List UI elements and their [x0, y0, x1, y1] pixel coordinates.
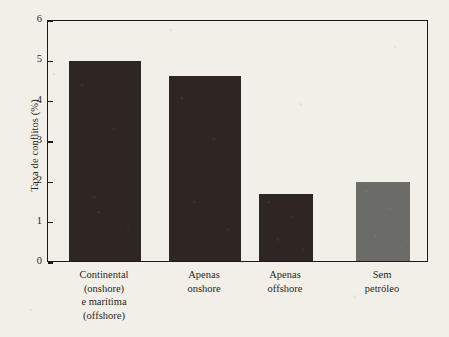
y-axis-tick-mark: [48, 222, 53, 224]
x-axis-label-line: Sem: [327, 268, 437, 282]
y-axis-tick-label: 5: [27, 53, 42, 64]
x-axis-label-line: Continental: [49, 268, 159, 282]
y-axis-tick-mark: [48, 141, 53, 143]
y-axis-tick-mark: [48, 262, 53, 264]
bar: [169, 76, 241, 261]
y-axis-tick-mark: [48, 20, 53, 22]
x-axis-label-line: e marítima: [49, 295, 159, 309]
x-axis-label-line: offshore: [230, 282, 340, 296]
x-axis-category-label: Sempetróleo: [327, 268, 437, 295]
x-axis-category-label: Apenasoffshore: [230, 268, 340, 295]
bar: [69, 61, 141, 261]
y-axis-tick-label: 0: [27, 255, 42, 266]
x-axis-label-line: Apenas: [230, 268, 340, 282]
y-axis-tick-label: 3: [27, 134, 42, 145]
y-axis-tick-mark: [48, 182, 53, 184]
y-axis-tick-label: 6: [27, 13, 42, 24]
plot-area: 0123456: [48, 21, 427, 261]
y-axis-tick-label: 1: [27, 215, 42, 226]
x-axis-label-line: (offshore): [49, 309, 159, 323]
plot-frame: 0123456: [47, 20, 428, 262]
y-axis-tick-label: 2: [27, 174, 42, 185]
x-axis-category-label: Continental(onshore)e marítima(offshore): [49, 268, 159, 322]
bar-chart: Taxa de conflitos (%) 0123456 Continenta…: [0, 0, 449, 337]
x-axis-label-line: (onshore): [49, 282, 159, 296]
y-axis-tick-mark: [48, 101, 53, 103]
x-axis-label-line: petróleo: [327, 282, 437, 296]
y-axis-tick-mark: [48, 61, 53, 63]
bar: [259, 194, 313, 261]
bar: [356, 182, 410, 261]
y-axis-tick-label: 4: [27, 94, 42, 105]
